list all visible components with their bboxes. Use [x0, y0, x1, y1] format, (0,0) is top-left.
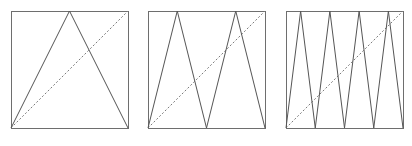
panel-1-group — [11, 11, 128, 128]
zigzag-diagonal-figure — [0, 0, 412, 146]
panel-3-diagonal-dashed-line — [286, 11, 403, 128]
figure-container — [0, 0, 412, 146]
panel-1-diagonal-dashed-line — [11, 11, 128, 128]
panel-2-group — [148, 11, 265, 128]
panel-2-diagonal-dashed-line — [148, 11, 265, 128]
panel-3-group — [286, 11, 403, 128]
